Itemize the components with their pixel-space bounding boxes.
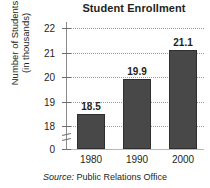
y-tick-20: 20	[62, 77, 71, 78]
y-tick-label-21: 21	[44, 47, 55, 58]
chart-title: Student Enrollment	[60, 2, 208, 14]
y-tick-label-22: 22	[44, 23, 55, 34]
y-tick-label-19: 19	[44, 96, 55, 107]
plot-area: 22212019180 18.519.921.1 198019902000	[66, 22, 204, 150]
x-axis-line	[66, 149, 204, 150]
source-note: Source: Public Relations Office	[0, 172, 210, 182]
y-tick-21: 21	[62, 53, 71, 54]
student-enrollment-bar-chart: Student Enrollment Number of Students (i…	[0, 0, 210, 188]
bar-1990	[123, 79, 151, 149]
y-tick-0: 0	[62, 149, 71, 150]
y-tick-18: 18	[62, 126, 71, 127]
x-tick-label-2000: 2000	[172, 154, 194, 165]
y-axis-line	[66, 22, 67, 150]
gridline-22	[67, 28, 204, 29]
y-tick-label-0: 0	[49, 144, 55, 155]
bar-2000	[169, 50, 197, 149]
y-axis-title-line-2: (in thousands)	[20, 1, 31, 86]
bar-value-label-1990: 19.9	[127, 66, 146, 77]
y-axis-title-line-1: Number of Students	[9, 1, 20, 86]
y-tick-label-18: 18	[44, 121, 55, 132]
source-keyword: Source:	[43, 172, 74, 182]
x-tick-label-1990: 1990	[126, 154, 148, 165]
x-tick-label-1980: 1980	[80, 154, 102, 165]
y-tick-label-20: 20	[44, 72, 55, 83]
y-tick-19: 19	[62, 102, 71, 103]
bar-value-label-2000: 21.1	[173, 37, 192, 48]
bar-value-label-1980: 18.5	[81, 101, 100, 112]
source-text: Public Relations Office	[77, 172, 167, 182]
bar-1980	[77, 114, 105, 149]
y-axis-title: Number of Students (in thousands)	[5, 0, 35, 103]
y-tick-22: 22	[62, 28, 71, 29]
